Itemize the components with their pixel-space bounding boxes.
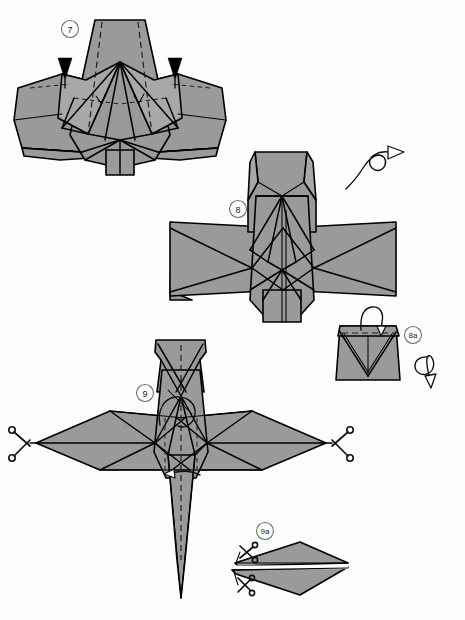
turn-over-arrow-icon xyxy=(346,146,404,189)
step-7-figure: 7 xyxy=(14,20,226,175)
step9-scissors-right-icon xyxy=(326,427,353,461)
step8a-rotate-arrow-icon xyxy=(415,356,436,388)
step8a-top-band xyxy=(338,326,399,336)
diagram-canvas: 7 xyxy=(0,0,465,620)
step-badge-9a-label: 9a xyxy=(261,527,270,536)
step9-scissors-left-icon xyxy=(9,427,36,461)
step-8-figure: 8 xyxy=(170,146,404,322)
step-8a-figure: 8a xyxy=(336,307,436,388)
step-badge-7-label: 7 xyxy=(67,25,72,35)
step-badge-9a: 9a xyxy=(257,523,274,540)
step-badge-9-label: 9 xyxy=(142,389,147,399)
step-badge-8-label: 8 xyxy=(235,205,240,215)
step-badge-7: 7 xyxy=(62,21,79,38)
step-badge-8a: 8a xyxy=(405,327,422,344)
step-badge-8a-label: 8a xyxy=(409,331,418,340)
step-badge-8: 8 xyxy=(230,201,247,218)
step-badge-9: 9 xyxy=(137,385,154,402)
step-9a-figure: 9a xyxy=(232,523,348,596)
origami-diagram-page: 7 xyxy=(0,0,465,620)
